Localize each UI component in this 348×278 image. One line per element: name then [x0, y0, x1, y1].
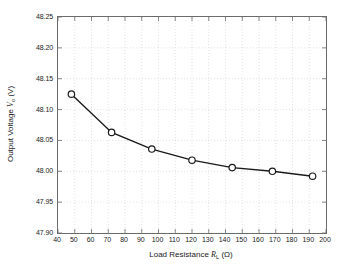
axis-title-symbol: RL: [211, 250, 219, 259]
x-axis-tick-labels: 4050607080901001101201301401501601701801…: [57, 236, 325, 248]
y-tick-label: 48.00: [36, 167, 53, 174]
x-axis-title: Load Resistance RL (Ω): [57, 250, 325, 260]
x-tick-label: 200: [319, 236, 330, 243]
x-tick-label: 40: [53, 236, 61, 243]
x-tick-label: 160: [252, 236, 263, 243]
data-point-marker: [149, 146, 155, 152]
x-tick-label: 140: [219, 236, 230, 243]
axis-title-unit: (Ω): [219, 250, 233, 259]
y-axis-title: Output Voltage Vo (V): [6, 16, 20, 232]
x-tick-label: 120: [185, 236, 196, 243]
x-tick-label: 170: [269, 236, 280, 243]
data-series: [58, 17, 326, 233]
y-tick-label: 47.90: [36, 229, 53, 236]
x-tick-label: 150: [236, 236, 247, 243]
data-point-marker: [309, 173, 315, 179]
x-tick-label: 130: [202, 236, 213, 243]
axis-title-text: Load Resistance: [149, 250, 211, 259]
x-tick-label: 80: [120, 236, 128, 243]
data-point-marker: [229, 164, 235, 170]
x-tick-label: 60: [87, 236, 95, 243]
y-tick-label: 48.15: [36, 74, 53, 81]
x-tick-label: 190: [303, 236, 314, 243]
data-point-marker: [108, 129, 114, 135]
data-point-marker: [189, 157, 195, 163]
axis-title-unit: (V): [6, 86, 15, 99]
x-tick-label: 50: [70, 236, 78, 243]
y-tick-label: 47.95: [36, 198, 53, 205]
x-tick-label: 90: [137, 236, 145, 243]
y-tick-label: 48.20: [36, 43, 53, 50]
x-tick-label: 180: [286, 236, 297, 243]
data-point-marker: [269, 168, 275, 174]
plot-area: [57, 16, 327, 234]
axis-title-symbol: Vo: [6, 99, 15, 107]
data-point-marker: [68, 91, 74, 97]
figure-canvas: 47.9047.9548.0048.0548.1048.1548.2048.25…: [0, 0, 348, 278]
x-tick-label: 70: [103, 236, 111, 243]
x-tick-label: 100: [152, 236, 163, 243]
y-tick-label: 48.25: [36, 13, 53, 20]
x-tick-label: 110: [169, 236, 180, 243]
y-tick-label: 48.05: [36, 136, 53, 143]
y-tick-label: 48.10: [36, 105, 53, 112]
axis-title-text: Output Voltage: [6, 107, 15, 162]
axis-title-subscript: o: [10, 99, 16, 102]
